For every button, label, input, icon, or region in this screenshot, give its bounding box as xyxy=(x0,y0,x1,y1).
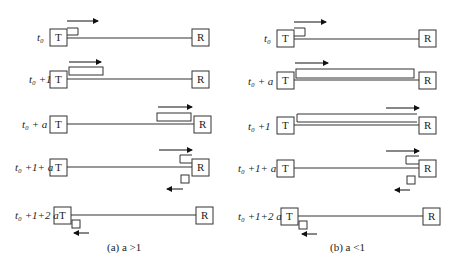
receiver-label: R xyxy=(197,161,205,173)
sender-label: T xyxy=(286,210,293,222)
row-b1 xyxy=(277,22,436,47)
sender-label: T xyxy=(282,74,289,86)
ack-packet xyxy=(72,220,80,228)
sender-label: T xyxy=(55,73,62,85)
time-label: t₀ xyxy=(37,31,44,43)
row-b3 xyxy=(277,108,436,134)
sender-label: T xyxy=(59,209,66,221)
receiver-label: R xyxy=(197,73,205,85)
row-a1 xyxy=(50,21,209,46)
frame-packet xyxy=(294,28,305,36)
ack-packet xyxy=(299,221,307,229)
caption: (a) a >1 xyxy=(107,241,141,254)
receiver-label: R xyxy=(424,32,432,44)
frame-packet xyxy=(69,67,103,75)
time-label: t₀ +1+2 a xyxy=(15,209,59,221)
panel-a xyxy=(50,21,213,233)
panel-a-text: t₀ t₀ +1 t₀ + a t₀ +1+ a t₀ +1+2 a T R T… xyxy=(15,31,209,254)
frame-packet xyxy=(297,114,417,122)
receiver-label: R xyxy=(424,162,432,174)
row-b4 xyxy=(277,151,436,190)
sender-label: T xyxy=(55,31,62,43)
panel-b-text: t₀ t₀ + a t₀ +1 t₀ +1+ a t₀ +1+2 a T R T… xyxy=(238,32,436,254)
sender-label: T xyxy=(282,119,289,131)
frame-packet xyxy=(180,155,192,163)
sender-label: T xyxy=(55,118,62,130)
time-label: t₀ +1 xyxy=(248,120,271,132)
receiver-label: R xyxy=(424,74,432,86)
caption: (b) a <1 xyxy=(330,241,365,254)
row-a4 xyxy=(50,150,209,189)
time-label: t₀ +1+ a xyxy=(238,162,277,174)
time-label: t₀ +1+ a xyxy=(15,161,54,173)
receiver-label: R xyxy=(201,209,209,221)
receiver-label: R xyxy=(428,210,436,222)
receiver-label: R xyxy=(197,31,205,43)
frame-packet xyxy=(406,156,419,164)
frame-packet xyxy=(67,28,78,35)
sender-label: T xyxy=(55,161,62,173)
sender-label: T xyxy=(282,162,289,174)
time-label: t₀ +1 xyxy=(29,73,52,85)
receiver-label: R xyxy=(424,119,432,131)
receiver-label: R xyxy=(199,118,207,130)
time-label: t₀ + a xyxy=(22,118,48,130)
row-b2 xyxy=(277,63,436,89)
row-a2 xyxy=(50,62,209,88)
time-label: t₀ + a xyxy=(248,75,274,87)
timing-diagram: t₀ t₀ +1 t₀ + a t₀ +1+ a t₀ +1+2 a T R T… xyxy=(0,0,457,268)
ack-packet xyxy=(407,176,415,184)
frame-packet xyxy=(157,113,191,121)
row-b5 xyxy=(281,208,440,234)
row-a5 xyxy=(54,207,213,233)
sender-label: T xyxy=(282,32,289,44)
row-a3 xyxy=(50,107,211,133)
time-label: t₀ +1+2 a xyxy=(238,210,282,222)
ack-packet xyxy=(181,175,189,183)
time-label: t₀ xyxy=(264,32,271,44)
panel-b xyxy=(277,22,440,234)
frame-packet xyxy=(296,69,414,78)
